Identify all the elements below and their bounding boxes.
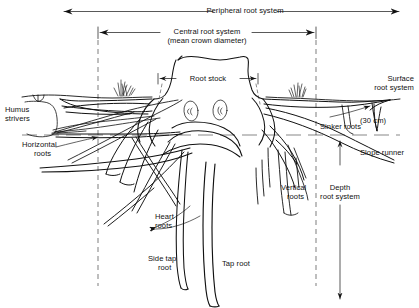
label-vertical-roots-line2: roots xyxy=(287,192,304,201)
label-depth-root-system-line2: root system xyxy=(320,192,360,201)
label-mean-crown-diameter: (mean crown diameter) xyxy=(167,36,246,45)
oblique-roots-left xyxy=(55,100,182,163)
central-root-crown xyxy=(138,98,275,157)
label-tap-root: Tap root xyxy=(222,259,250,268)
label-vertical-roots-line1: Vertical xyxy=(281,183,306,192)
label-depth-root-system-line1: Depth xyxy=(330,183,351,192)
label-heart-roots-line1: Heart xyxy=(155,212,174,221)
label-heart-roots-line2: roots xyxy=(155,221,172,230)
grass-tuft-left xyxy=(114,80,135,96)
label-horizontal-roots-line1: Horizontal xyxy=(22,140,57,149)
label-surface-root-system-line2: root system xyxy=(374,83,414,92)
label-surface-root-system-line1: Surface xyxy=(387,74,414,83)
label-humus-strivers-line1: Humus xyxy=(5,105,29,114)
label-side-tap-root-line1: Side tap xyxy=(148,254,176,263)
horizontal-roots-left xyxy=(60,99,152,114)
label-root-stock: Root stock xyxy=(190,74,226,83)
tap-root xyxy=(203,162,219,307)
crown-roots-left xyxy=(106,119,158,192)
grass-tuft-right xyxy=(289,83,306,97)
label-side-tap-root-line2: root xyxy=(158,263,171,272)
label-central-root-system: Central root system xyxy=(174,27,241,36)
label-peripheral-root-system: Peripheral root system xyxy=(206,6,283,15)
root-system-diagram: Peripheral root system Central root syst… xyxy=(0,0,419,308)
label-depth-30cm: (30 cm) xyxy=(360,116,386,125)
label-humus-strivers-line2: strivers xyxy=(5,114,30,123)
ground-surface-line xyxy=(22,95,400,101)
side-tap-root xyxy=(176,150,188,290)
label-sinker-roots: Sinker roots xyxy=(320,122,361,131)
leader-horizontal-roots xyxy=(56,137,98,147)
label-slope-runner: Slope runner xyxy=(360,148,404,157)
label-horizontal-roots-line2: roots xyxy=(34,149,51,158)
bark-scar-marks xyxy=(183,99,228,121)
diagram-canvas xyxy=(0,0,419,308)
